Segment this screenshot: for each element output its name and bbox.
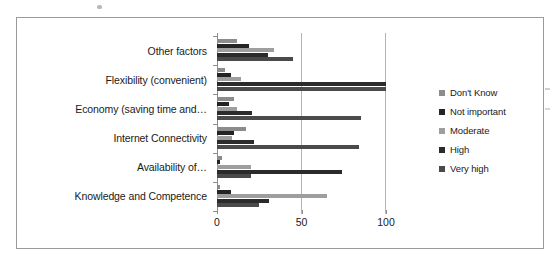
category-label: Internet Connectivity <box>17 124 214 153</box>
bar <box>217 203 259 207</box>
value-tick-mark <box>217 210 218 214</box>
category-label: Economy (saving time and… <box>17 94 214 123</box>
bar <box>217 82 386 86</box>
bar <box>217 199 269 203</box>
value-axis-labels: 050100 <box>217 216 386 232</box>
value-tick-mark <box>386 210 387 214</box>
category-label: Flexibility (convenient) <box>17 65 214 94</box>
bar <box>217 48 274 52</box>
bar <box>217 185 220 189</box>
legend-label: Moderate <box>450 125 489 136</box>
category-axis-labels: Other factorsFlexibility (convenient)Eco… <box>17 36 214 211</box>
scan-artifact-speck-right-upper <box>545 88 550 90</box>
bar <box>217 44 249 48</box>
bar <box>217 68 225 72</box>
legend-swatch-icon <box>439 147 445 153</box>
legend-swatch-icon <box>439 166 445 172</box>
bar <box>217 102 229 106</box>
category-label: Knowledge and Competence <box>17 182 214 211</box>
scan-artifact-speck-right-lower <box>545 108 550 110</box>
bar <box>217 107 237 111</box>
chart-legend: Don't KnowNot importantModerateHighVery … <box>439 83 539 178</box>
bar <box>217 190 231 194</box>
bar <box>217 194 327 198</box>
bar-group <box>217 124 386 153</box>
chart-frame: Other factorsFlexibility (convenient)Eco… <box>16 17 544 249</box>
bar-group <box>217 182 386 211</box>
bar <box>217 140 254 144</box>
bar <box>217 165 251 169</box>
legend-swatch-icon <box>439 128 445 134</box>
bar <box>217 156 222 160</box>
bar <box>217 131 234 135</box>
bar-group <box>217 153 386 182</box>
value-tick-label: 100 <box>377 216 395 228</box>
value-tick-label: 50 <box>296 216 308 228</box>
bar <box>217 77 241 81</box>
bar <box>217 87 386 91</box>
bar-groups <box>217 36 386 211</box>
bar <box>217 57 293 61</box>
bar <box>217 136 232 140</box>
category-label: Other factors <box>17 36 214 65</box>
bar <box>217 145 359 149</box>
value-tick-mark <box>302 210 303 214</box>
plot-area <box>217 36 386 211</box>
bar-group <box>217 94 386 123</box>
bar <box>217 127 246 131</box>
category-tick <box>213 65 217 66</box>
bar <box>217 97 234 101</box>
bar-group <box>217 36 386 65</box>
bar <box>217 160 220 164</box>
category-tick <box>213 182 217 183</box>
legend-item[interactable]: Moderate <box>439 121 539 140</box>
legend-item[interactable]: Don't Know <box>439 83 539 102</box>
chart-plot-wrapper: Other factorsFlexibility (convenient)Eco… <box>17 18 545 250</box>
category-tick <box>213 94 217 95</box>
bar <box>217 174 251 178</box>
legend-swatch-icon <box>439 90 445 96</box>
value-tick-label: 0 <box>214 216 220 228</box>
legend-label: High <box>450 144 469 155</box>
legend-label: Not important <box>450 106 506 117</box>
legend-label: Don't Know <box>450 87 497 98</box>
bar <box>217 111 252 115</box>
legend-label: Very high <box>450 163 489 174</box>
bar <box>217 170 342 174</box>
legend-swatch-icon <box>439 109 445 115</box>
bar <box>217 73 231 77</box>
legend-item[interactable]: High <box>439 140 539 159</box>
category-tick <box>213 153 217 154</box>
bar-group <box>217 65 386 94</box>
category-tick <box>213 124 217 125</box>
bar <box>217 39 237 43</box>
category-label: Availability of… <box>17 153 214 182</box>
scan-artifact-speck <box>97 5 102 9</box>
bar <box>217 116 361 120</box>
category-tick <box>213 36 217 37</box>
legend-item[interactable]: Not important <box>439 102 539 121</box>
legend-item[interactable]: Very high <box>439 159 539 178</box>
bar <box>217 53 268 57</box>
